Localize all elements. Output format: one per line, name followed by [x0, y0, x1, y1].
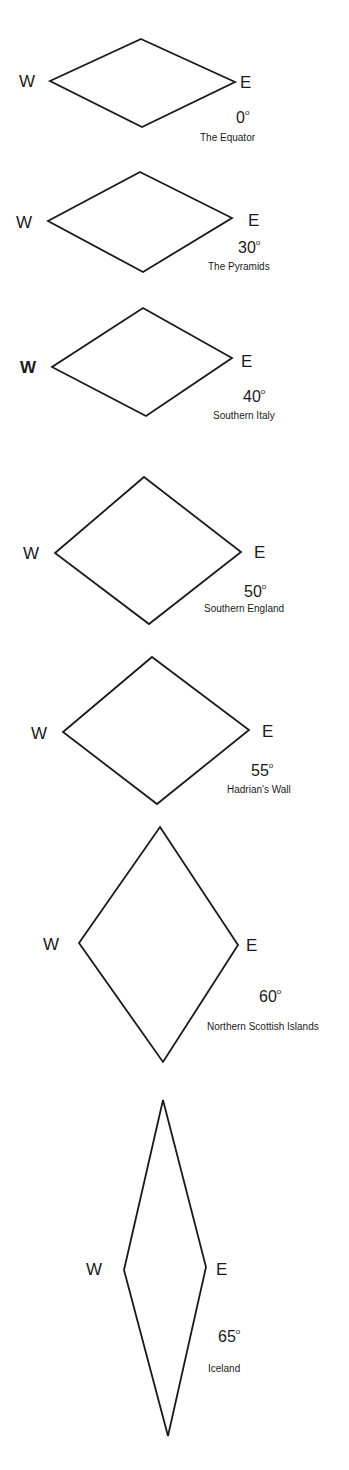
place-label: The Equator — [200, 133, 255, 143]
latitude-value: 60 — [259, 988, 277, 1005]
west-label: W — [43, 936, 59, 953]
latitude-value: 50 — [244, 583, 262, 600]
place-label: Iceland — [208, 1364, 240, 1374]
grid-cell-diamond-65 — [124, 1100, 206, 1436]
grid-cell-diamond-40 — [52, 308, 232, 416]
west-label: W — [20, 359, 36, 376]
degree-symbol: o — [262, 582, 266, 591]
grid-cell-diamond-50 — [55, 477, 241, 624]
place-label: The Pyramids — [208, 262, 270, 272]
west-label: W — [16, 214, 32, 231]
east-label: E — [248, 212, 259, 229]
degree-symbol: o — [236, 1327, 240, 1336]
place-label: Northern Scottish Islands — [207, 1022, 319, 1032]
grid-cell-shapes — [0, 0, 349, 1470]
west-label: W — [86, 1261, 102, 1278]
latitude-value: 30 — [238, 239, 256, 256]
degree-symbol: o — [277, 987, 281, 996]
place-label: Hadrian's Wall — [227, 785, 291, 795]
degree-symbol: o — [245, 108, 249, 117]
east-label: E — [246, 937, 257, 954]
east-label: E — [240, 74, 251, 91]
latitude-label: 60o — [259, 989, 281, 1005]
latitude-value: 65 — [218, 1328, 236, 1345]
west-label: W — [23, 545, 39, 562]
latitude-grid-diagram: WE0oThe EquatorWE30oThe PyramidsWE40oSou… — [0, 0, 349, 1470]
east-label: E — [241, 353, 252, 370]
east-label: E — [216, 1261, 227, 1278]
latitude-value: 0 — [236, 109, 245, 126]
latitude-value: 55 — [251, 762, 269, 779]
grid-cell-diamond-55 — [63, 657, 249, 804]
latitude-label: 30o — [238, 240, 260, 256]
west-label: W — [31, 725, 47, 742]
place-label: Southern Italy — [213, 411, 275, 421]
grid-cell-diamond-30 — [48, 172, 232, 272]
latitude-label: 55o — [251, 763, 273, 779]
east-label: E — [254, 544, 265, 561]
degree-symbol: o — [261, 387, 265, 396]
latitude-label: 0o — [236, 110, 249, 126]
latitude-label: 50o — [244, 584, 266, 600]
latitude-value: 40 — [243, 388, 261, 405]
place-label: Southern England — [204, 604, 284, 614]
grid-cell-diamond-0 — [50, 39, 235, 127]
degree-symbol: o — [256, 238, 260, 247]
latitude-label: 65o — [218, 1329, 240, 1345]
east-label: E — [262, 723, 273, 740]
west-label: W — [19, 73, 35, 90]
latitude-label: 40o — [243, 389, 265, 405]
degree-symbol: o — [269, 761, 273, 770]
